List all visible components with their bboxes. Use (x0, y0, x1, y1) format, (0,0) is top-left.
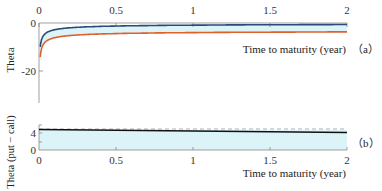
panel-b: 0 0.5 1 1.5 2 0 4 Time to maturity (year… (5, 115, 380, 189)
panel-b-xtick-1.5: 1.5 (263, 154, 277, 166)
panel-a-tag: （a） (352, 43, 379, 55)
panel-a-xtick-1: 1 (190, 4, 196, 16)
panel-b-ylabel: Theta (put − call) (5, 115, 17, 189)
panel-b-ytick-4: 4 (31, 127, 37, 139)
panel-a-xtick-1.5: 1.5 (263, 4, 277, 16)
panel-b-ytick-0: 0 (31, 144, 37, 156)
panel-a-xtick-2: 2 (344, 4, 350, 16)
panel-a: 0 0.5 1 1.5 2 0 -20 Time to maturity (ye… (4, 4, 379, 103)
panel-b-tag: （b） (352, 137, 380, 149)
theta-chart-figure: 0 0.5 1 1.5 2 0 -20 Time to maturity (ye… (0, 0, 382, 191)
panel-b-xtick-0: 0 (36, 154, 42, 166)
panel-b-xtick-1: 1 (190, 154, 196, 166)
panel-a-ytick-0: 0 (31, 17, 37, 29)
panel-b-xtick-0.5: 0.5 (109, 154, 123, 166)
panel-b-xlabel: Time to maturity (year) (243, 167, 346, 180)
panel-b-xtick-2: 2 (344, 154, 350, 166)
panel-a-ytick-neg20: -20 (21, 65, 36, 77)
panel-a-xlabel: Time to maturity (year) (243, 43, 346, 56)
panel-a-ylabel: Theta (4, 47, 16, 72)
panel-a-xtick-0: 0 (36, 4, 42, 16)
panel-a-xtick-0.5: 0.5 (109, 4, 123, 16)
